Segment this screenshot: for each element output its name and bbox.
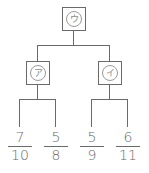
connector-leaf-4 <box>127 99 128 127</box>
denominator: 8 <box>41 149 71 162</box>
denominator: 10 <box>5 149 35 162</box>
connector-root-down <box>73 31 74 46</box>
connector-left-down <box>37 85 38 100</box>
leaf-fraction-2: 5 8 <box>41 131 71 162</box>
left-label: ア <box>30 65 46 81</box>
denominator: 9 <box>77 149 107 162</box>
leaf-fraction-4: 6 11 <box>113 131 143 162</box>
root-box: ウ <box>62 7 86 31</box>
connector-top-horizontal <box>37 45 110 46</box>
connector-leaf-1 <box>19 99 20 127</box>
connector-left-up <box>37 45 38 61</box>
right-box: イ <box>98 61 122 85</box>
connector-leaf-2 <box>55 99 56 127</box>
connector-right-horizontal <box>91 99 128 100</box>
root-label: ウ <box>66 11 82 27</box>
numerator: 7 <box>5 131 35 144</box>
leaf-fraction-1: 7 10 <box>5 131 35 162</box>
numerator: 6 <box>113 131 143 144</box>
denominator: 11 <box>113 149 143 162</box>
connector-leaf-3 <box>91 99 92 127</box>
leaf-fraction-3: 5 9 <box>77 131 107 162</box>
left-box: ア <box>26 61 50 85</box>
connector-left-horizontal <box>19 99 56 100</box>
numerator: 5 <box>77 131 107 144</box>
right-label: イ <box>102 65 118 81</box>
connector-right-down <box>109 85 110 100</box>
numerator: 5 <box>41 131 71 144</box>
connector-right-up <box>109 45 110 61</box>
